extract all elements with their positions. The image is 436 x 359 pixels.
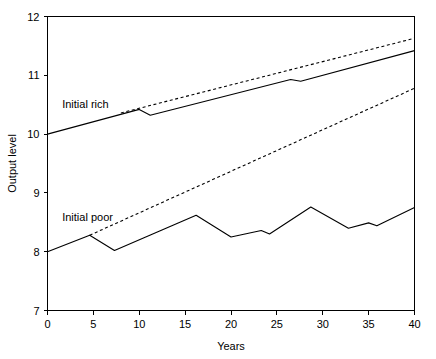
x-axis-tick-label: 5 bbox=[90, 318, 96, 330]
series-annotations: Initial richInitial poor bbox=[62, 98, 113, 223]
series-line-initial-poor-trend bbox=[90, 88, 415, 235]
y-axis-tick-label: 10 bbox=[27, 128, 39, 140]
series-line-initial-rich-trend bbox=[121, 38, 415, 113]
x-axis-tick-label: 10 bbox=[133, 318, 145, 330]
x-axis-tick-label: 30 bbox=[317, 318, 329, 330]
output-level-line-chart: 7891011120510152025303540 Initial richIn… bbox=[0, 0, 436, 359]
x-axis-tick-label: 25 bbox=[271, 318, 283, 330]
x-axis-tick-label: 20 bbox=[225, 318, 237, 330]
series-annotation-initial-rich: Initial rich bbox=[62, 98, 108, 110]
plot-border bbox=[48, 17, 415, 311]
chart-container: 7891011120510152025303540 Initial richIn… bbox=[0, 0, 436, 359]
axis-titles: YearsOutput level bbox=[6, 134, 245, 351]
plot-frame bbox=[48, 17, 415, 311]
y-axis-tick-label: 9 bbox=[33, 187, 39, 199]
y-axis-tick-label: 11 bbox=[28, 69, 39, 81]
x-axis-title: Years bbox=[217, 340, 245, 352]
y-axis-tick-label: 8 bbox=[33, 246, 39, 258]
x-axis-tick-label: 40 bbox=[408, 318, 420, 330]
y-axis-tick-label: 12 bbox=[27, 11, 39, 23]
y-axis-title: Output level bbox=[6, 134, 18, 193]
axis-tick-labels: 7891011120510152025303540 bbox=[27, 11, 420, 330]
x-axis-tick-label: 35 bbox=[363, 318, 375, 330]
series-annotation-initial-poor: Initial poor bbox=[62, 211, 113, 223]
axis-tick-marks bbox=[44, 17, 415, 315]
series-line-initial-rich-actual bbox=[48, 51, 415, 135]
x-axis-tick-label: 15 bbox=[179, 318, 191, 330]
x-axis-tick-label: 0 bbox=[44, 318, 50, 330]
y-axis-tick-label: 7 bbox=[33, 305, 39, 317]
